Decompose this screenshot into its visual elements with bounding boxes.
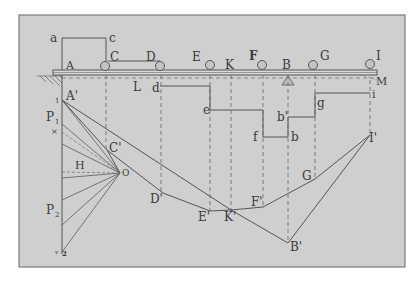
figure-panel	[19, 15, 405, 267]
label-A: A	[65, 59, 75, 72]
label-M: M	[376, 75, 387, 88]
label-e: e	[203, 103, 210, 117]
label-b-prime: b'	[277, 110, 288, 124]
label-C: C	[110, 50, 119, 64]
label-x: ×	[51, 127, 58, 136]
label-O: O	[122, 168, 129, 178]
label-L: L	[133, 80, 141, 94]
label-G: G	[320, 49, 330, 63]
label-c: c	[109, 31, 116, 45]
label-one: 1	[55, 97, 59, 105]
diagram-canvas: a c A C D E K F B G I M L d e f b' b g i…	[0, 0, 419, 283]
label-K-prime: K'	[224, 210, 236, 224]
label-C-prime: C'	[109, 141, 121, 155]
label-F-prime: F'	[251, 195, 263, 209]
wheel-E	[206, 61, 215, 70]
label-A-prime: A'	[65, 89, 78, 103]
label-B-prime: B'	[290, 240, 302, 254]
wheel-D	[156, 62, 165, 71]
label-P1-sub: 1	[55, 118, 59, 126]
label-P1: P	[46, 110, 54, 124]
label-d: d	[152, 81, 160, 95]
wheel-G	[309, 61, 318, 70]
label-b: b	[291, 130, 299, 144]
label-K: K	[225, 58, 235, 72]
wheel-F	[258, 61, 267, 70]
label-G-prime: G	[302, 169, 312, 183]
label-F: F	[249, 49, 258, 63]
label-P2-sub: 2	[55, 211, 59, 219]
label-E: E	[192, 50, 201, 64]
wheel-I	[366, 60, 375, 69]
label-D: D	[146, 50, 156, 64]
label-H: H	[75, 159, 85, 172]
label-two: 2	[62, 249, 67, 258]
label-I: I	[376, 49, 381, 63]
graphic-statics-diagram: a c A C D E K F B G I M L d e f b' b g i…	[0, 0, 419, 283]
label-B: B	[282, 58, 291, 72]
label-I-prime: I'	[369, 131, 377, 145]
label-D-prime: D'	[150, 192, 163, 206]
label-v: v	[54, 248, 59, 255]
label-P2: P	[46, 203, 54, 217]
label-g: g	[317, 96, 325, 110]
wheel-C	[101, 62, 110, 71]
label-i: i	[372, 88, 376, 101]
label-a: a	[50, 31, 57, 45]
beam	[53, 70, 377, 75]
label-E-prime: E'	[198, 210, 210, 224]
